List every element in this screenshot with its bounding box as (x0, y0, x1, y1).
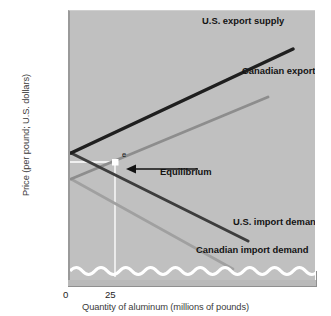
curve-label-canadian-export-supply: Canadian export supply (242, 65, 314, 77)
x-axis-baseline (68, 280, 317, 287)
curve-label-canadian-import-demand: Canadian import demand (196, 244, 313, 256)
curve-label-us-export-supply: U.S. export supply (202, 15, 282, 27)
y-axis-title: Price (per pound; U.S. dollars) (21, 45, 31, 225)
curves-layer (70, 11, 315, 280)
x-tick-label-25: 25 (105, 289, 116, 300)
equilibrium-point-label: e (122, 150, 126, 159)
annotation-equilibrium: Equilibrium (160, 166, 230, 178)
equilibrium-marker (112, 159, 119, 166)
x-tick-label-0: 0 (63, 289, 68, 300)
chart-figure: Price (per pound; U.S. dollars) $1.00 .8… (0, 0, 331, 316)
x-axis-end-cap (316, 271, 317, 287)
plot-area: U.S. export supply Canadian export suppl… (68, 10, 315, 280)
x-axis-title: Quantity of aluminum (millions of pounds… (0, 302, 331, 312)
axis-break-wave (70, 268, 315, 275)
curve-label-us-import-demand: U.S. import demand (233, 216, 309, 228)
equilibrium-arrow-head (126, 165, 136, 174)
